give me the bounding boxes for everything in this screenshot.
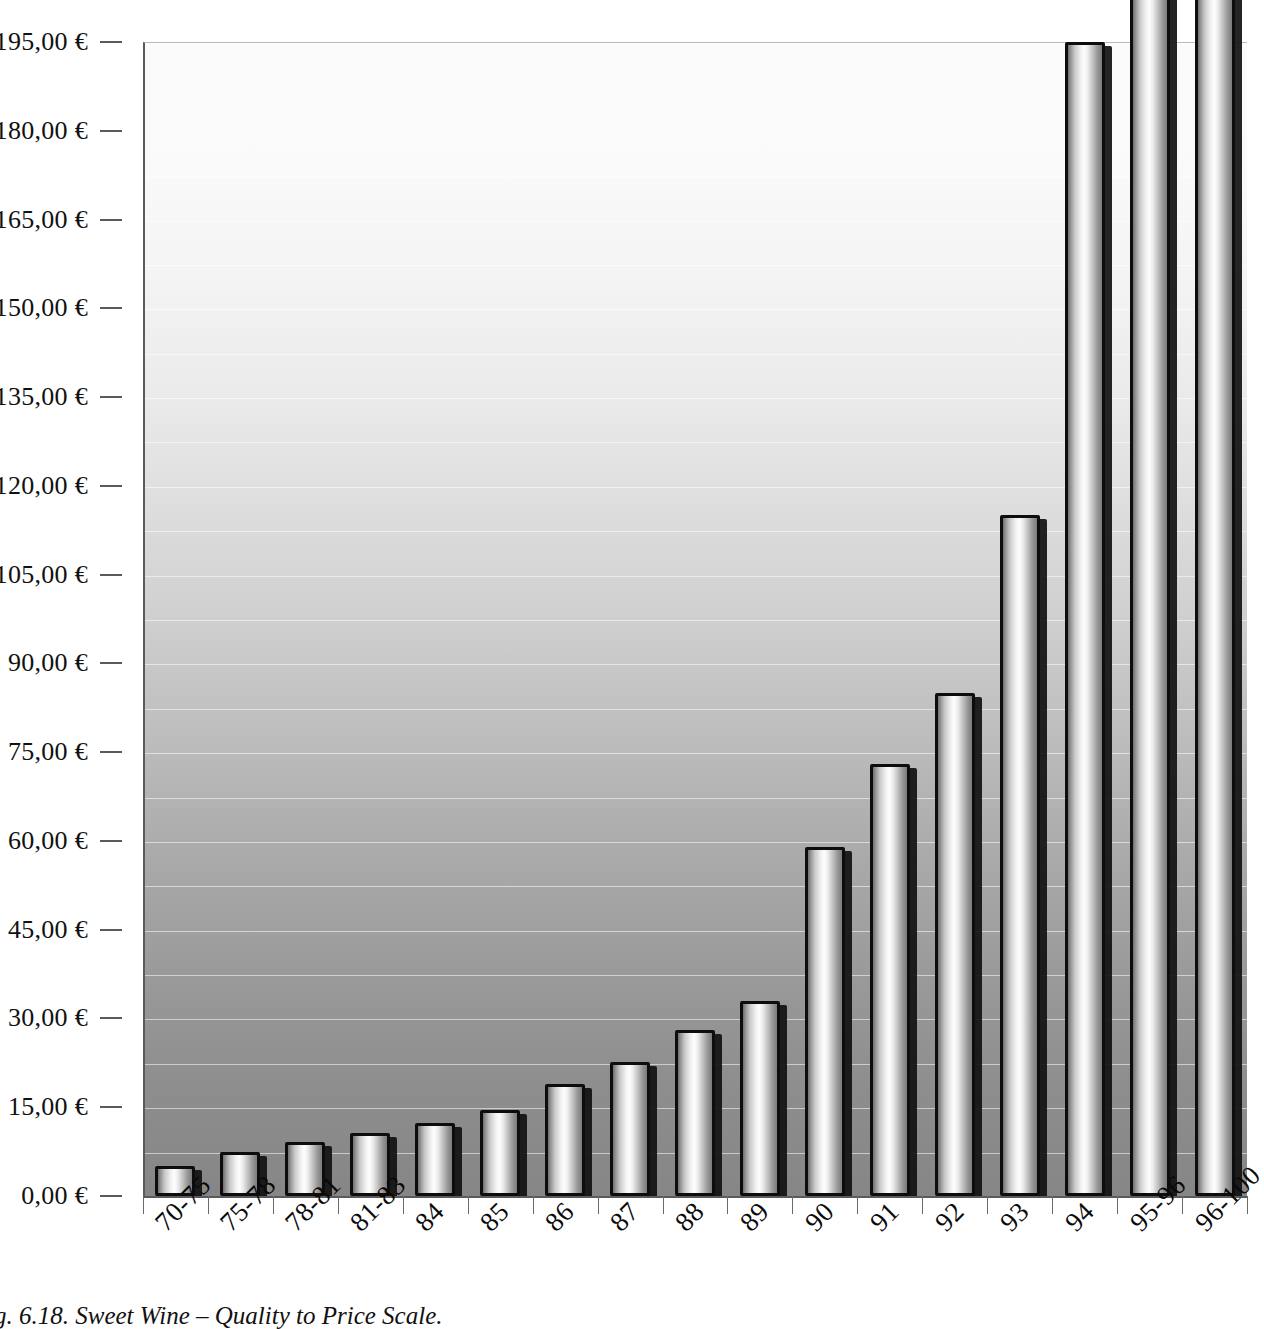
- y-axis-tick-mark: [100, 41, 122, 43]
- x-axis-tick-label: 90: [799, 1196, 841, 1238]
- bar-slot: [1195, 0, 1235, 1196]
- bar-slot: [415, 0, 455, 1196]
- bar-slot: [740, 0, 780, 1196]
- x-axis-tick-mark: [208, 1196, 209, 1214]
- x-axis-tick-label: 87: [604, 1196, 646, 1238]
- bar-slot: [870, 0, 910, 1196]
- bar-89[interactable]: [740, 1001, 780, 1196]
- x-axis-tick-mark: [1052, 1196, 1053, 1214]
- y-axis: 0,00 €15,00 €30,00 €45,00 €60,00 €75,00 …: [0, 42, 122, 1196]
- bar-94[interactable]: [1065, 42, 1105, 1196]
- y-axis-tick-mark: [100, 1017, 122, 1019]
- y-axis-tick-label: 60,00 €: [8, 826, 88, 856]
- y-axis-tick-mark: [100, 751, 122, 753]
- x-axis-tick-label: 92: [929, 1196, 971, 1238]
- x-axis-tick-mark: [727, 1196, 728, 1214]
- y-axis-tick-mark: [100, 662, 122, 664]
- x-axis-tick-label: 89: [734, 1196, 776, 1238]
- y-axis-tick-label: 30,00 €: [8, 1003, 88, 1033]
- bar-slot: [285, 0, 325, 1196]
- bar-slot: [805, 0, 845, 1196]
- y-axis-tick-label: 90,00 €: [8, 648, 88, 678]
- y-axis-tick-label: 15,00 €: [8, 1092, 88, 1122]
- bar-87[interactable]: [610, 1062, 650, 1196]
- y-axis-tick-label: 180,00 €: [0, 116, 88, 146]
- bar-slot: [675, 0, 715, 1196]
- x-axis-tick-mark: [338, 1196, 339, 1214]
- bar-slot: [935, 0, 975, 1196]
- x-axis-tick-mark: [1182, 1196, 1183, 1214]
- bar-95-96[interactable]: [1130, 0, 1170, 1196]
- x-axis-tick-mark: [273, 1196, 274, 1214]
- x-axis-tick-mark: [1117, 1196, 1118, 1214]
- bar-91[interactable]: [870, 764, 910, 1196]
- bar-slot: [545, 0, 585, 1196]
- y-axis-tick-mark: [100, 1106, 122, 1108]
- x-axis-tick-mark: [792, 1196, 793, 1214]
- bar-90[interactable]: [805, 847, 845, 1196]
- bar-84[interactable]: [415, 1123, 455, 1196]
- y-axis-tick-label: 135,00 €: [0, 382, 88, 412]
- bar-slot: [155, 0, 195, 1196]
- x-axis-tick-label: 94: [1059, 1196, 1101, 1238]
- x-axis-tick-mark: [857, 1196, 858, 1214]
- y-axis-tick-mark: [100, 574, 122, 576]
- y-axis-tick-mark: [100, 219, 122, 221]
- x-axis-tick-mark: [143, 1196, 144, 1214]
- y-axis-tick-label: 75,00 €: [8, 737, 88, 767]
- x-axis-tick-mark: [663, 1196, 664, 1214]
- x-axis-tick-mark: [533, 1196, 534, 1214]
- figure-caption: g. 6.18. Sweet Wine – Quality to Price S…: [0, 1302, 1249, 1329]
- x-axis-tick-label: 93: [994, 1196, 1036, 1238]
- bar-slot: [610, 0, 650, 1196]
- y-axis-tick-mark: [100, 307, 122, 309]
- y-axis-tick-mark: [100, 840, 122, 842]
- x-axis-tick-label: 88: [669, 1196, 711, 1238]
- bar-92[interactable]: [935, 693, 975, 1196]
- y-axis-tick-label: 105,00 €: [0, 560, 88, 590]
- bar-85[interactable]: [480, 1110, 520, 1196]
- y-axis-tick-label: 165,00 €: [0, 205, 88, 235]
- x-axis-tick-label: 91: [864, 1196, 906, 1238]
- y-axis-tick-label: 120,00 €: [0, 471, 88, 501]
- bar-96-100[interactable]: [1195, 0, 1235, 1196]
- y-axis-tick-mark: [100, 929, 122, 931]
- bars-layer: [143, 0, 1247, 1196]
- y-axis-tick-label: 0,00 €: [21, 1181, 88, 1211]
- x-axis-tick-mark: [403, 1196, 404, 1214]
- x-axis-tick-mark: [987, 1196, 988, 1214]
- x-axis-tick-mark: [468, 1196, 469, 1214]
- bar-93[interactable]: [1000, 515, 1040, 1196]
- y-axis-tick-mark: [100, 1195, 122, 1197]
- bar-86[interactable]: [545, 1084, 585, 1196]
- bar-slot: [1065, 0, 1105, 1196]
- bar-slot: [350, 0, 390, 1196]
- x-axis-tick-label: 84: [409, 1196, 451, 1238]
- bar-slot: [220, 0, 260, 1196]
- y-axis-tick-label: 45,00 €: [8, 915, 88, 945]
- bar-slot: [1130, 0, 1170, 1196]
- bar-88[interactable]: [675, 1030, 715, 1196]
- y-axis-tick-mark: [100, 485, 122, 487]
- bar-slot: [480, 0, 520, 1196]
- x-axis-tick-label: 85: [474, 1196, 516, 1238]
- x-axis-tick-label: 86: [539, 1196, 581, 1238]
- y-axis-tick-mark: [100, 130, 122, 132]
- y-axis-tick-label: 195,00 €: [0, 27, 88, 57]
- bar-slot: [1000, 0, 1040, 1196]
- y-axis-tick-mark: [100, 396, 122, 398]
- x-axis: 70-7575-7878-8181-8384858687888990919293…: [143, 1216, 1255, 1316]
- x-axis-tick-mark: [922, 1196, 923, 1214]
- x-axis-tick-mark: [598, 1196, 599, 1214]
- y-axis-tick-label: 150,00 €: [0, 293, 88, 323]
- x-axis-tick-mark: [1247, 1196, 1248, 1214]
